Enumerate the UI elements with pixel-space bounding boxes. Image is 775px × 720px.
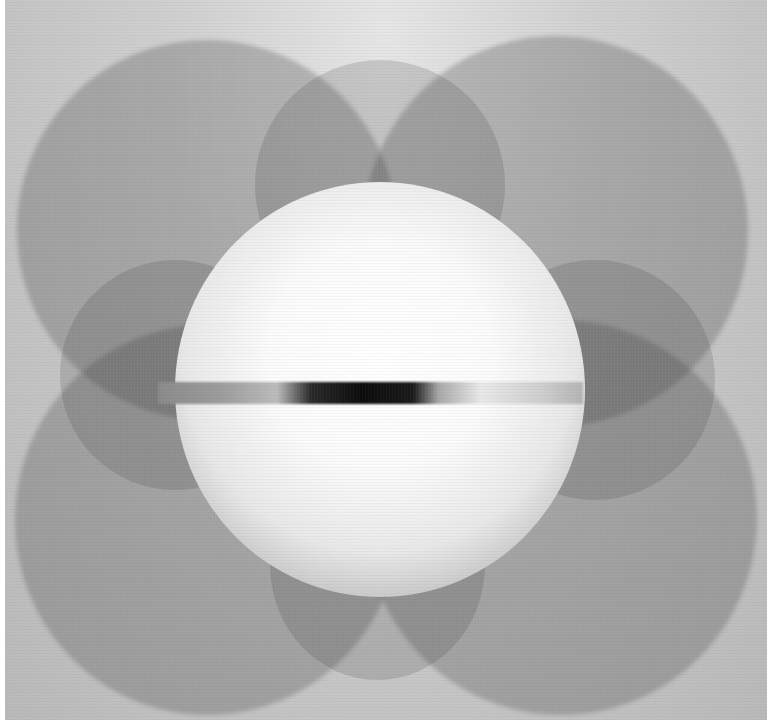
horizontal-bar bbox=[158, 382, 583, 404]
abstract-photograph: Monochrome abstract photograph: four lar… bbox=[5, 0, 767, 720]
